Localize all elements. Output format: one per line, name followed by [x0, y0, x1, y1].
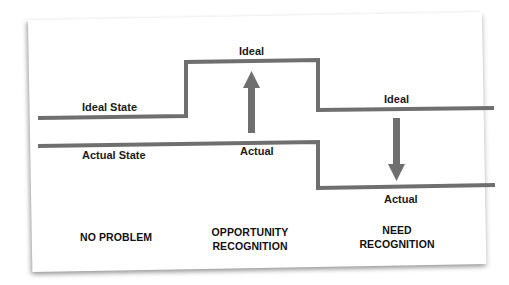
arrow-up-icon — [243, 71, 260, 133]
opportunity-ideal-label: Ideal — [239, 45, 264, 57]
column-no-problem: NO PROBLEM — [80, 231, 152, 243]
need-ideal-label: Ideal — [384, 93, 409, 105]
opportunity-actual-label: Actual — [240, 145, 274, 157]
column-opportunity-line2: RECOGNITION — [212, 240, 287, 252]
need-actual-label: Actual — [384, 193, 418, 205]
problem-recognition-diagram: Ideal State Actual State Ideal Actual Id… — [0, 0, 509, 285]
column-opportunity-line1: OPPORTUNITY — [212, 226, 289, 238]
actual-state-label: Actual State — [82, 149, 146, 161]
diagram-stage: Ideal State Actual State Ideal Actual Id… — [0, 0, 509, 285]
column-need-line2: RECOGNITION — [359, 238, 434, 250]
column-need-line1: NEED — [382, 224, 412, 236]
ideal-state-label: Ideal State — [82, 101, 137, 113]
arrow-down-icon — [388, 118, 405, 181]
